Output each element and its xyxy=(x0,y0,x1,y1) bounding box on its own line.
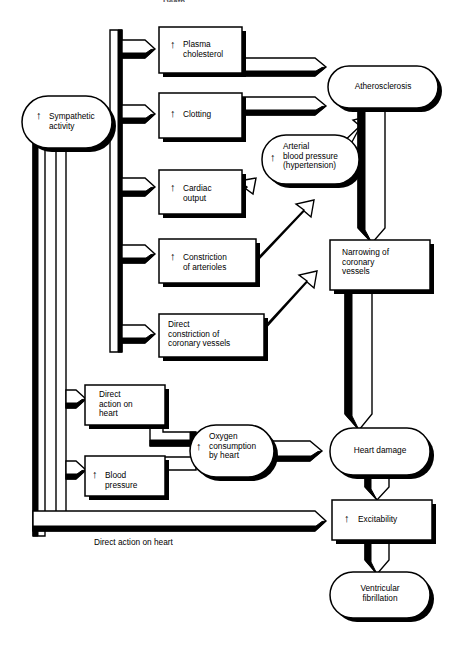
node-atherosclerosis[interactable] xyxy=(328,66,442,112)
edge-sympathetic-inner-bus xyxy=(56,140,66,522)
edge-to-constriction-arterioles xyxy=(122,245,155,263)
edge-caption-direct-action-on-heart: Direct action on heart xyxy=(94,537,173,547)
edge-to-clotting xyxy=(122,105,155,123)
up-arrow-icon-sympathetic: ↑ xyxy=(36,110,42,121)
node-constriction-arterioles[interactable] xyxy=(159,239,260,287)
up-arrow-icon-arterial-blood-pressure: ↑ xyxy=(270,152,276,163)
up-arrow-icon-blood-pressure: ↑ xyxy=(92,469,98,480)
edge-to-plasma-cholesterol xyxy=(122,40,155,58)
edge-narrowing-to-heart-damage xyxy=(345,288,372,430)
node-narrowing-coronary-vessels[interactable] xyxy=(330,240,434,294)
up-arrow-icon-excitability: ↑ xyxy=(344,513,350,524)
edge-direct-action-on-heart-long xyxy=(33,511,326,531)
up-arrow-icon-constriction-arterioles: ↑ xyxy=(170,251,176,262)
edge-sympathetic-bus xyxy=(110,30,122,352)
edge-sympathetic-left-bus xyxy=(33,140,45,536)
node-cardiac-output[interactable] xyxy=(159,170,246,218)
node-plasma-cholesterol[interactable] xyxy=(159,27,246,77)
edge-to-direct-action-heart xyxy=(66,390,86,408)
flow-diagram: Death xyxy=(0,0,454,650)
up-arrow-icon-clotting: ↑ xyxy=(170,108,176,119)
up-arrow-icon-oxygen-consumption: ↑ xyxy=(196,441,202,452)
up-arrow-icon-plasma-cholesterol: ↑ xyxy=(170,39,176,50)
node-sympathetic-activity[interactable] xyxy=(22,96,116,152)
edge-to-cardiac-output xyxy=(122,178,155,196)
node-arterial-blood-pressure[interactable] xyxy=(262,135,363,188)
diagram-canvas xyxy=(0,0,454,650)
edge-to-direct-constriction xyxy=(122,325,155,343)
node-oxygen-consumption[interactable] xyxy=(190,425,278,481)
node-direct-action-on-heart[interactable] xyxy=(85,385,169,429)
edge-atherosclerosis-to-narrowing xyxy=(358,105,385,243)
up-arrow-icon-cardiac-output: ↑ xyxy=(170,182,176,193)
node-blood-pressure[interactable] xyxy=(85,456,169,500)
node-heart-damage[interactable] xyxy=(330,428,434,479)
node-ventricular-fibrillation[interactable] xyxy=(330,572,434,622)
node-direct-constriction-coronary[interactable] xyxy=(159,314,268,361)
edge-to-blood-pressure xyxy=(66,461,86,479)
